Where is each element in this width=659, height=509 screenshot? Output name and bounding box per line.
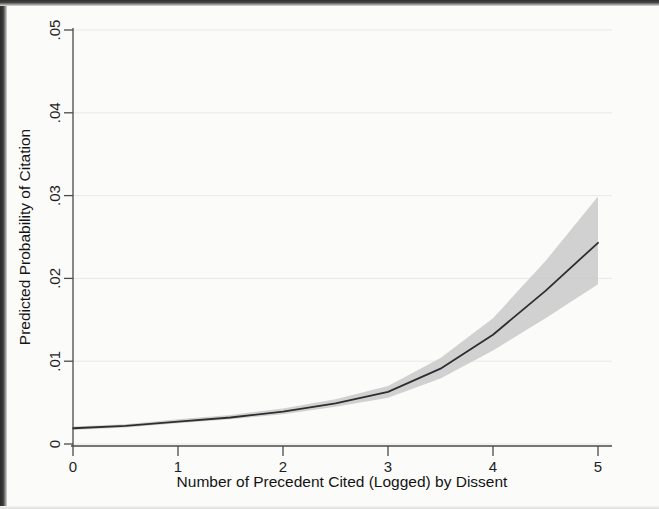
x-tick-label: 0 (69, 458, 77, 475)
gridlines (73, 30, 612, 444)
scanned-figure-page: 0.01.02.03.04.05 012345 Predicted Probab… (0, 0, 659, 509)
y-tick-label: .05 (46, 20, 63, 41)
y-tick-label: 0 (46, 440, 63, 448)
y-axis-tick-labels: 0.01.02.03.04.05 (46, 20, 63, 449)
y-tick-label: .01 (46, 351, 63, 372)
y-tick-label: .03 (46, 185, 63, 206)
chart-figure: 0.01.02.03.04.05 012345 Predicted Probab… (0, 0, 659, 509)
x-axis-ticks (73, 446, 598, 456)
y-tick-label: .04 (46, 102, 63, 123)
predicted-probability-line-chart: 0.01.02.03.04.05 012345 Predicted Probab… (0, 0, 659, 509)
y-axis-title: Predicted Probability of Citation (16, 129, 33, 345)
x-axis-title: Number of Precedent Cited (Logged) by Di… (177, 473, 509, 490)
y-axis-ticks (64, 30, 73, 444)
x-tick-label: 5 (594, 458, 602, 475)
y-tick-label: .02 (46, 268, 63, 289)
